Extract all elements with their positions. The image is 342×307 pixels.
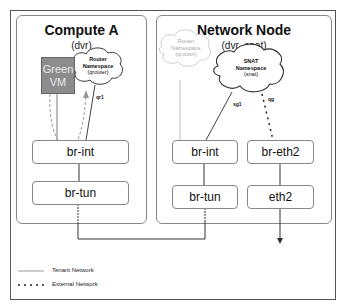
network-br-int[interactable]: br-int <box>172 140 238 164</box>
vm-label-line1: Green <box>43 63 74 76</box>
port-qr1: qr1 <box>96 94 104 100</box>
port-qg: qg <box>268 96 274 102</box>
legend-external-label: External Network <box>52 281 98 287</box>
network-br-tun[interactable]: br-tun <box>172 185 238 209</box>
snat-ns-label: SNAT Namespace (snat) <box>226 58 276 78</box>
compute-br-int[interactable]: br-int <box>32 140 129 164</box>
compute-br-tun[interactable]: br-tun <box>32 181 129 205</box>
network-br-eth2[interactable]: br-eth2 <box>247 140 314 164</box>
network-router-ns-label: Router Namespace (qrouter) <box>166 38 206 58</box>
green-vm[interactable]: Green VM <box>41 57 75 94</box>
vm-label-line2: VM <box>50 76 67 89</box>
compute-router-ns-label: Router Namespace (qrouter) <box>78 56 118 76</box>
port-sg1: sg1 <box>233 101 242 107</box>
legend-tenant-label: Tenant Network <box>52 267 94 273</box>
network-eth2[interactable]: eth2 <box>247 185 314 209</box>
